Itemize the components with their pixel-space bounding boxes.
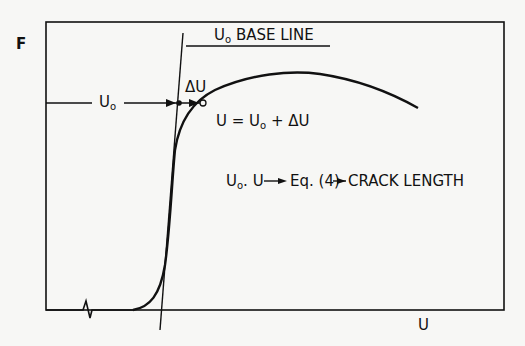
arrowhead-icon <box>166 99 176 107</box>
flow-arrow-icon <box>278 178 287 184</box>
base-line-label: Uo BASE LINE <box>214 28 314 43</box>
equation-label: U = Uo + ΔU <box>216 114 310 129</box>
flow-start-label: Uo. U <box>226 174 264 189</box>
flow-equation-label: Eq. (4) <box>290 174 340 189</box>
u0-label: Uo <box>99 95 116 110</box>
y-axis-label: F <box>16 37 26 52</box>
flow-result-label: CRACK LENGTH <box>348 174 464 189</box>
load-curve <box>133 73 418 310</box>
plot-frame <box>46 22 504 310</box>
x-axis-label: U <box>418 318 429 333</box>
tangent-point-dot <box>176 100 182 106</box>
delta-u-label: ΔU <box>185 80 206 95</box>
measured-point-circle <box>200 100 206 106</box>
